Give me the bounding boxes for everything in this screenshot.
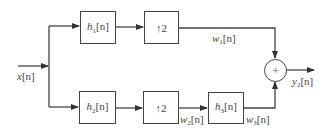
output-signal-arg: [n] <box>300 75 313 87</box>
filter-h1-arg: [n] <box>96 20 109 32</box>
input-signal-arg: [n] <box>22 70 35 82</box>
filter-h2-block: h2[n] <box>79 91 116 124</box>
signal-w3-arg: [n] <box>257 113 270 125</box>
upsampler-bottom-factor: 2 <box>161 102 167 114</box>
filter-h2-arg: [n] <box>96 100 109 112</box>
output-signal-label: y2[n] <box>292 76 313 89</box>
upsampler-bottom-block: ↑2 <box>143 91 179 124</box>
upsampler-top-block: ↑2 <box>144 11 179 44</box>
signal-w2-arg: [n] <box>191 113 204 125</box>
filter-h1-block: h1[n] <box>80 11 116 44</box>
filter-h3-block: h3[n] <box>208 92 244 124</box>
filter-h1-label: h1[n] <box>87 20 109 35</box>
signal-w1-arg: [n] <box>223 32 236 44</box>
filter-h3-arg: [n] <box>224 100 237 112</box>
input-signal-label: x[n] <box>17 71 35 82</box>
plus-icon: + <box>272 66 279 75</box>
signal-w1-label: w1[n] <box>212 33 236 46</box>
filter-h2-label: h2[n] <box>87 100 109 115</box>
adder-node: + <box>264 59 287 82</box>
upsampler-bottom-label: ↑2 <box>156 102 167 114</box>
filter-h3-label: h3[n] <box>215 100 237 115</box>
upsampler-top-label: ↑2 <box>156 22 167 34</box>
signal-w3-label: w3[n] <box>246 114 270 127</box>
upsampler-top-factor: 2 <box>162 22 168 34</box>
signal-w2-label: w2[n] <box>180 114 204 127</box>
